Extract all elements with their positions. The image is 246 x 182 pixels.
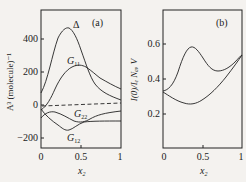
ytick-a-0: 0: [33, 99, 38, 110]
ytick-b-06: 0.6: [148, 38, 161, 49]
label-delta: Δ: [73, 19, 80, 30]
ytick-a-minus200: −200: [17, 132, 38, 143]
xtick-b-0: 0: [162, 151, 167, 162]
xtick-b-1: 1: [239, 151, 244, 162]
label-g22: G22: [74, 108, 87, 120]
label-g12: G12: [67, 132, 80, 144]
figure: 400 200 0 −200 0 0.5 1 x2 A³ (molecule)⁻…: [0, 0, 246, 182]
ytick-b-02: 0.2: [148, 108, 161, 119]
panel-b: 0.6 0.4 0.2 0 0.5 1 x2 I(0)/Iₑ Nₐᵥ V (b): [129, 10, 244, 177]
ytick-a-200: 200: [23, 66, 38, 77]
panel-label-a: (a): [92, 17, 103, 29]
xlabel-a: x2: [77, 165, 85, 177]
ytick-b-04: 0.4: [148, 73, 161, 84]
panel-a: 400 200 0 −200 0 0.5 1 x2 A³ (molecule)⁻…: [5, 10, 123, 177]
xtick-a-05: 0.5: [75, 151, 88, 162]
xtick-a-0: 0: [39, 151, 44, 162]
xtick-a-1: 1: [118, 151, 123, 162]
panel-label-b: (b): [216, 17, 228, 29]
label-g11: G11: [67, 55, 80, 67]
curve-zero-dashed: [42, 103, 121, 106]
ytick-a-400: 400: [23, 33, 38, 44]
xlabel-b: x2: [199, 165, 207, 177]
curve-delta: [41, 28, 121, 100]
ylabel-a: A³ (molecule)⁻¹: [5, 53, 15, 111]
panel-a-frame: [41, 10, 121, 148]
ylabel-b: I(0)/Iₑ Nₐᵥ V: [129, 57, 139, 102]
xtick-b-05: 0.5: [197, 151, 210, 162]
curve-b-upper: [163, 47, 242, 91]
